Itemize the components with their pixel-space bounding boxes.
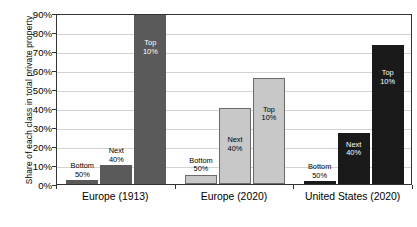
bar (304, 181, 336, 184)
x-axis-tick-mark (56, 185, 57, 189)
bar (219, 108, 251, 184)
gridline (57, 53, 411, 54)
x-axis-tick-mark (175, 185, 176, 189)
bar-label-line2: 50% (308, 172, 331, 181)
bar-value-label: Bottom50% (189, 157, 212, 174)
bar-label-line2: 40% (109, 156, 124, 165)
gridline (57, 34, 411, 35)
gridline (57, 72, 411, 73)
x-axis-group-label: United States (2020) (293, 191, 412, 202)
x-axis-tick-mark (293, 185, 294, 189)
bar (372, 45, 404, 184)
bar-label-line1: Bottom (189, 157, 212, 166)
bar (338, 133, 370, 184)
bar (134, 15, 166, 184)
bar-value-label: Bottom50% (71, 162, 94, 179)
x-axis-group-label: Europe (1913) (56, 191, 175, 202)
bar-value-label: Next40% (109, 147, 124, 164)
bar (253, 78, 285, 184)
bar-label-line2: 50% (71, 171, 94, 180)
x-axis-group-label: Europe (2020) (175, 191, 294, 202)
bar-value-label: Bottom50% (308, 163, 331, 180)
bar (66, 180, 98, 184)
plot-area: Bottom50%Next40%Top10%Bottom50%Next40%To… (56, 14, 412, 185)
bar (185, 175, 217, 185)
y-axis-tick-marks (0, 14, 56, 185)
x-axis-tick-mark (412, 185, 413, 189)
bar (100, 165, 132, 184)
bar-chart: Share of each class in total private pro… (0, 0, 417, 227)
gridline (57, 91, 411, 92)
